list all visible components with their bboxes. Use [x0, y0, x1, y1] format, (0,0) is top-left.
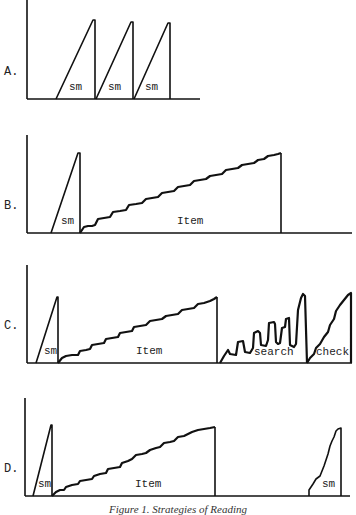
panel-d-graph [25, 398, 350, 496]
panel-a-sm-label-1: sm [69, 81, 82, 93]
panel-a-sm-label-2: sm [108, 81, 121, 93]
panel-d-label: D. [4, 462, 18, 476]
panel-c-label: C. [4, 319, 18, 333]
panel-c-search-label: search [254, 346, 294, 358]
panel-c-item-label: Item [136, 345, 162, 357]
panel-b-label: B. [4, 199, 18, 213]
panel-c-sm-label: sm [44, 345, 57, 357]
panel-d-item-segment [52, 427, 215, 496]
figure-caption: Figure 1. Strategies of Reading [0, 503, 356, 515]
panel-c-graph [27, 265, 352, 363]
panel-d-sm-label-2: sm [322, 478, 335, 490]
panel-a-label: A. [4, 65, 18, 79]
panel-c-check-label: check [316, 346, 349, 358]
panel-d-item-label: Item [135, 478, 161, 490]
panel-b-sm-label: sm [61, 215, 74, 227]
panel-a-sm-label-3: sm [145, 81, 158, 93]
panel-b-item-label: Item [177, 215, 203, 227]
panel-d-sm-label-1: sm [38, 478, 51, 490]
